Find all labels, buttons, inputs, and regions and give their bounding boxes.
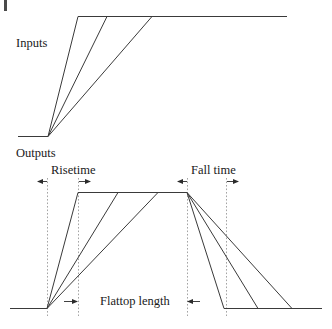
outputs-label: Outputs — [16, 146, 56, 160]
scan-edge-mark — [4, 0, 7, 11]
figure-background — [0, 0, 332, 329]
risetime-label: Risetime — [51, 163, 96, 177]
inputs-label: Inputs — [16, 36, 47, 50]
flattop-length-label: Flattop length — [100, 294, 171, 308]
pulse-waveform-diagram: Inputs Outputs Risetime Fall — [0, 0, 332, 329]
fall-time-label: Fall time — [191, 163, 236, 177]
